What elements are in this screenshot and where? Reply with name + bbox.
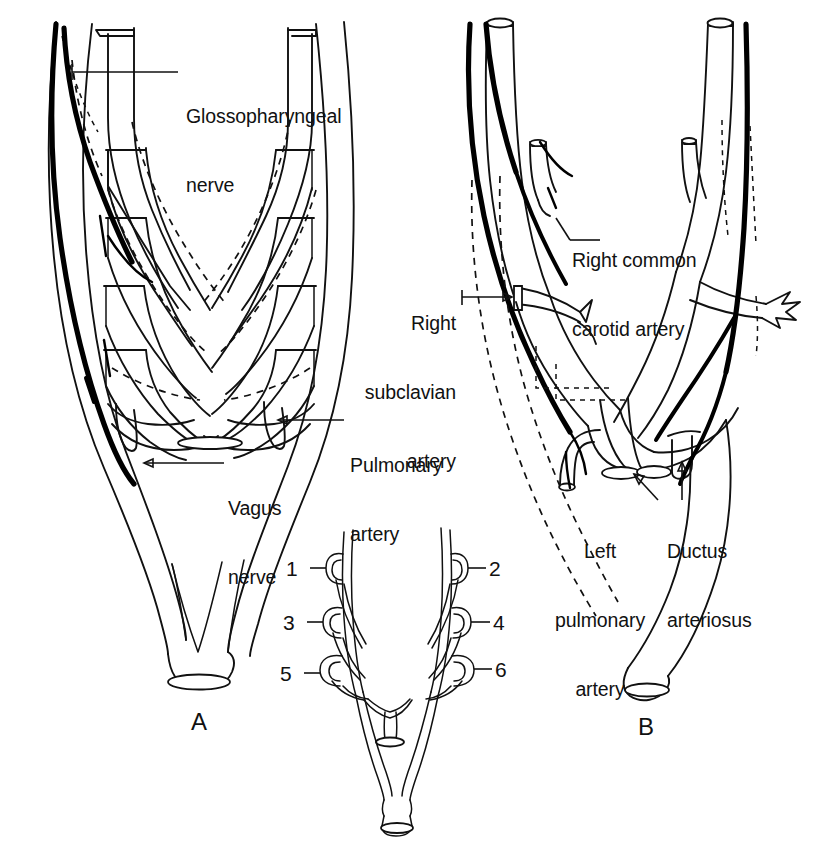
label-glossopharyngeal-nerve: Glossopharyngeal nerve <box>186 59 342 243</box>
label-ductus-arteriosus: Ductus arteriosus <box>667 494 752 678</box>
label-left-pulmonary-artery: Left pulmonary artery <box>538 494 662 747</box>
label-ductus-arteriosus-line1: Ductus <box>667 540 752 563</box>
figure-root: Glossopharyngeal nerve Vagus nerve Pulmo… <box>0 0 813 844</box>
label-right-subclavian-artery-line2: subclavian <box>330 381 456 404</box>
label-right-common-carotid-artery-line2: carotid artery <box>572 318 697 341</box>
key-number-6: 6 <box>495 658 507 682</box>
key-number-2: 2 <box>489 557 501 581</box>
key-number-5: 5 <box>280 662 292 686</box>
key-number-4: 4 <box>493 611 505 635</box>
label-right-subclavian-artery-line3: artery <box>330 450 456 473</box>
key-number-1: 1 <box>286 557 298 581</box>
label-left-pulmonary-artery-line3: artery <box>538 678 662 701</box>
panel-letter-a: A <box>191 708 207 736</box>
label-glossopharyngeal-nerve-line2: nerve <box>186 174 342 197</box>
label-vagus-nerve: Vagus nerve <box>228 451 281 635</box>
label-glossopharyngeal-nerve-line1: Glossopharyngeal <box>186 105 342 128</box>
label-left-pulmonary-artery-line2: pulmonary <box>538 609 662 632</box>
label-right-subclavian-artery: Right subclavian artery <box>330 266 456 519</box>
label-vagus-nerve-line1: Vagus <box>228 497 281 520</box>
panel-letter-b: B <box>638 713 654 741</box>
label-vagus-nerve-line2: nerve <box>228 566 281 589</box>
key-number-3: 3 <box>283 611 295 635</box>
label-left-pulmonary-artery-line1: Left <box>538 540 662 563</box>
label-pulmonary-artery-line2: artery <box>350 523 442 546</box>
label-right-subclavian-artery-line1: Right <box>330 312 456 335</box>
label-right-common-carotid-artery-line1: Right common <box>572 249 697 272</box>
label-ductus-arteriosus-line2: arteriosus <box>667 609 752 632</box>
label-right-common-carotid-artery: Right common carotid artery <box>572 203 697 387</box>
